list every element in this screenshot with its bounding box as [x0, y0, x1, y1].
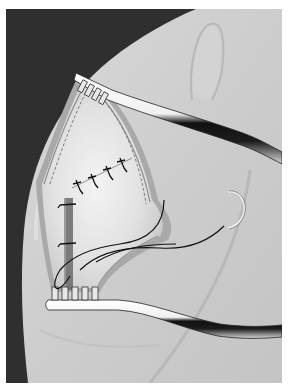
- surgical-illustration: [0, 0, 290, 389]
